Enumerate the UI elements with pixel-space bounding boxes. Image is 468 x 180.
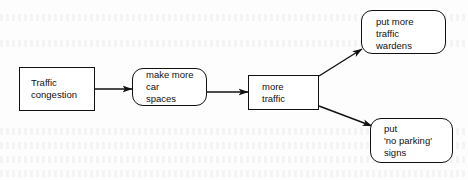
node-label-line: Traffic [31,77,94,89]
diagram-page: Traffic congestion make more car spaces … [0,0,468,180]
node-put-more-traffic-wardens: put more traffic wardens [361,10,446,54]
node-put-no-parking-signs: put 'no parking' signs [370,118,453,163]
arrow-more-traffic-to-wardens [319,49,362,76]
node-more-traffic: more traffic [248,75,319,110]
node-label-line: traffic [262,93,318,105]
node-label-line: signs [384,147,452,159]
node-label-line: put more [376,16,445,28]
node-label-line: spaces [146,93,206,105]
arrow-more-traffic-to-no-parking [319,106,372,126]
node-label-line: make more [146,69,206,81]
node-label-line: traffic [376,28,445,40]
node-label-line: put [384,123,452,135]
node-label-line: car [146,81,206,93]
node-traffic-congestion: Traffic congestion [19,67,95,111]
node-label-line: congestion [31,89,94,101]
node-label-line: more [262,81,318,93]
node-label-line: wardens [376,40,445,52]
node-label-line: 'no parking' [384,135,452,147]
node-make-more-car-spaces: make more car spaces [132,68,207,106]
